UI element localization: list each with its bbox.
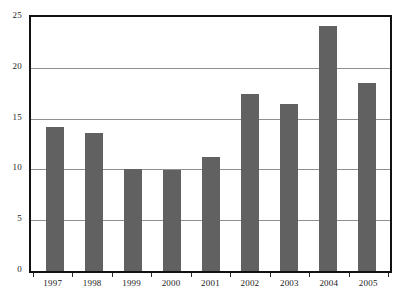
- x-tick-label: 2000: [151, 279, 190, 299]
- bar: [124, 169, 142, 271]
- bar-slot: [74, 17, 113, 271]
- bar-slot: [191, 17, 230, 271]
- x-tick-mark: [349, 273, 350, 277]
- x-tick-label: 2004: [309, 279, 348, 299]
- y-tick-label: 10: [13, 163, 22, 172]
- x-tick-mark: [270, 273, 271, 277]
- bars-layer: [31, 17, 390, 271]
- bar: [85, 133, 103, 271]
- bar-slot: [347, 17, 386, 271]
- bar-slot: [35, 17, 74, 271]
- x-tick-mark: [309, 273, 310, 277]
- x-tick-label: 2005: [349, 279, 388, 299]
- bar-slot: [269, 17, 308, 271]
- bar: [241, 94, 259, 271]
- bar: [319, 26, 337, 271]
- y-tick-label: 25: [13, 11, 22, 20]
- bar-slot: [230, 17, 269, 271]
- y-tick-label: 0: [17, 265, 22, 274]
- bar-slot: [152, 17, 191, 271]
- y-axis: 0510152025: [0, 15, 26, 273]
- y-tick-label: 20: [13, 61, 22, 70]
- bar-slot: [308, 17, 347, 271]
- plot-area: [29, 15, 392, 273]
- x-tick-label: 1998: [72, 279, 111, 299]
- x-tick-mark: [151, 273, 152, 277]
- x-tick-mark: [388, 273, 389, 277]
- bar-slot: [113, 17, 152, 271]
- x-tick-label: 2001: [191, 279, 230, 299]
- x-tick-mark: [191, 273, 192, 277]
- bar: [280, 104, 298, 271]
- x-tick-mark: [33, 273, 34, 277]
- bar-chart: 0510152025 19971998199920002001200220032…: [0, 0, 408, 305]
- x-tick-label: 2003: [270, 279, 309, 299]
- x-axis: 199719981999200020012002200320042005: [29, 279, 392, 299]
- y-tick-label: 15: [13, 112, 22, 121]
- x-tick-mark: [112, 273, 113, 277]
- x-tick-label: 1999: [112, 279, 151, 299]
- x-tick-label: 1997: [33, 279, 72, 299]
- y-tick-label: 5: [17, 214, 22, 223]
- bar: [202, 157, 220, 271]
- x-tick-mark: [72, 273, 73, 277]
- bar: [46, 127, 64, 271]
- x-tick-mark: [230, 273, 231, 277]
- bar: [358, 83, 376, 271]
- x-tick-label: 2002: [230, 279, 269, 299]
- bar: [163, 170, 181, 271]
